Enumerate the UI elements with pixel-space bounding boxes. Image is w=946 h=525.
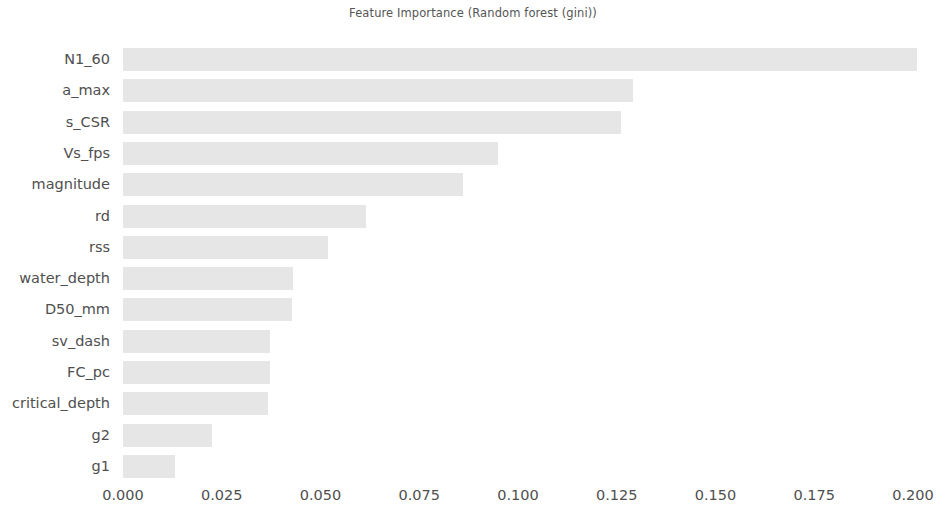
bar: [123, 205, 366, 228]
chart-title: Feature Importance (Random forest (gini)…: [0, 6, 946, 20]
x-axis-tick-label: 0.100: [497, 487, 539, 503]
bar: [123, 455, 175, 478]
bar-row: [123, 357, 913, 388]
x-axis-tick-label: 0.050: [300, 487, 342, 503]
x-axis-tick-label: 0.200: [892, 487, 934, 503]
y-axis-tick-label: a_max: [62, 75, 110, 106]
y-axis-tick-label: s_CSR: [66, 107, 110, 138]
y-axis-tick-label: water_depth: [19, 263, 110, 294]
y-axis-tick-label: N1_60: [64, 44, 110, 75]
bar: [123, 330, 270, 353]
bar: [123, 48, 917, 71]
y-axis-tick-label: g1: [92, 451, 110, 482]
x-axis-tick-label: 0.025: [201, 487, 243, 503]
bar-row: [123, 294, 913, 325]
y-axis-tick-label: Vs_fps: [63, 138, 110, 169]
y-axis-tick-label: rss: [89, 232, 110, 263]
bar-row: [123, 326, 913, 357]
chart-figure: Feature Importance (Random forest (gini)…: [0, 0, 946, 525]
x-axis-tick-label: 0.175: [793, 487, 835, 503]
bar: [123, 142, 498, 165]
y-axis-tick-label: g2: [92, 420, 110, 451]
x-axis-tick-label: 0.075: [398, 487, 440, 503]
bar-row: [123, 388, 913, 419]
bar: [123, 236, 328, 259]
y-axis-tick-label: critical_depth: [12, 388, 110, 419]
plot-area: [123, 40, 913, 485]
bar: [123, 79, 633, 102]
bar: [123, 267, 293, 290]
bar-row: [123, 75, 913, 106]
y-axis-tick-label: magnitude: [32, 169, 110, 200]
bar-row: [123, 232, 913, 263]
x-axis-tick-labels: 0.0000.0250.0500.0750.1000.1250.1500.175…: [0, 487, 946, 517]
x-axis-tick-label: 0.150: [695, 487, 737, 503]
x-axis-tick-label: 0.125: [596, 487, 638, 503]
bar-row: [123, 138, 913, 169]
bar-row: [123, 44, 913, 75]
bar-row: [123, 169, 913, 200]
y-axis-tick-label: FC_pc: [67, 357, 110, 388]
bar-row: [123, 451, 913, 482]
y-axis-tick-label: rd: [95, 201, 110, 232]
bar-row: [123, 201, 913, 232]
y-axis-tick-label: sv_dash: [52, 326, 110, 357]
bar: [123, 424, 212, 447]
bar-row: [123, 420, 913, 451]
bar: [123, 298, 292, 321]
x-axis-tick-label: 0.000: [102, 487, 144, 503]
y-axis-tick-label: D50_mm: [45, 294, 110, 325]
bar: [123, 392, 268, 415]
bar: [123, 111, 621, 134]
bar: [123, 173, 463, 196]
bar-row: [123, 107, 913, 138]
bar: [123, 361, 270, 384]
bar-row: [123, 263, 913, 294]
